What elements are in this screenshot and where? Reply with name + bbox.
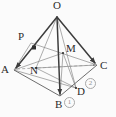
- vertex-label-B: B: [55, 99, 62, 110]
- edge-O-A: [16, 17, 57, 68]
- right-angle-mark-P: [32, 46, 36, 50]
- line-A-P: [14, 43, 31, 70]
- vertex-label-O: O: [53, 0, 61, 11]
- point-label-M: M: [66, 43, 76, 54]
- annotation-circled-1: 1: [64, 97, 75, 108]
- dot-M: [62, 52, 64, 54]
- geometry-figure: O A B C P M N D 1 2: [0, 0, 116, 117]
- line-N-O: [36, 17, 57, 68]
- point-label-D: D: [77, 86, 85, 97]
- vertex-label-A: A: [1, 64, 9, 75]
- vertex-label-C: C: [100, 60, 107, 71]
- annotation-circled-2: 2: [85, 78, 96, 89]
- point-label-P: P: [18, 31, 24, 42]
- point-label-N: N: [30, 65, 38, 76]
